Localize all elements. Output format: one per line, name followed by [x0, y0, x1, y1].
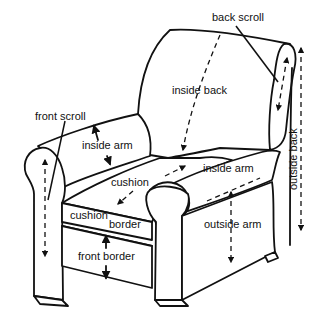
armchair-drawing: back scroll inside back front scroll ins… [0, 0, 321, 318]
foot-right-front [155, 300, 188, 306]
label-back-scroll: back scroll [212, 11, 264, 23]
label-cushion-border-line1: cushion [70, 209, 108, 221]
label-inside-back: inside back [172, 84, 228, 96]
label-outside-back: outside back [287, 128, 299, 190]
armchair-diagram: back scroll inside back front scroll ins… [0, 0, 321, 318]
label-front-border: front border [78, 250, 135, 262]
label-inside-arm-right: inside arm [203, 162, 254, 174]
label-cushion-border-line2: border [109, 218, 141, 230]
label-cushion: cushion [111, 176, 149, 188]
label-front-scroll: front scroll [35, 110, 86, 122]
label-outside-arm: outside arm [204, 218, 261, 230]
label-inside-arm-left: inside arm [82, 139, 133, 151]
